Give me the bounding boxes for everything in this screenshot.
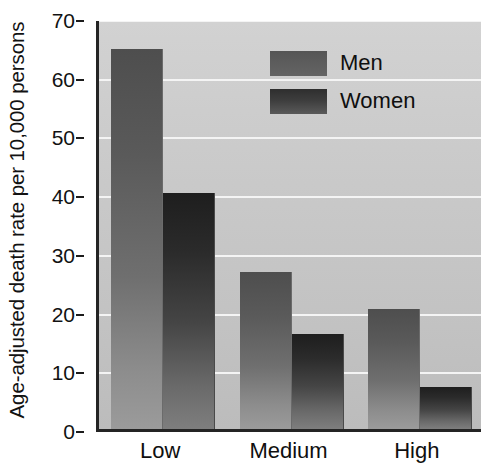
x-axis-ticks: LowMediumHigh bbox=[96, 438, 481, 475]
legend-label-women: Women bbox=[340, 88, 415, 114]
legend-item-men: Men bbox=[270, 44, 470, 82]
bar-chart: Age-adjusted death rate per 10,000 perso… bbox=[0, 0, 489, 475]
legend: Men Women bbox=[270, 44, 470, 120]
y-axis-tick-mark bbox=[76, 255, 84, 257]
bar-women-high bbox=[420, 387, 472, 429]
x-axis-tick-label: High bbox=[394, 438, 439, 464]
legend-label-men: Men bbox=[340, 50, 383, 76]
y-axis-title-text: Age-adjusted death rate per 10,000 perso… bbox=[5, 22, 29, 419]
y-axis-tick-mark bbox=[76, 20, 84, 22]
legend-item-women: Women bbox=[270, 82, 470, 120]
legend-swatch-women bbox=[270, 89, 327, 114]
y-axis-ticks: 010203040506070 bbox=[34, 0, 84, 475]
y-axis-tick-mark bbox=[76, 314, 84, 316]
x-axis-tick-label: Low bbox=[140, 438, 180, 464]
y-axis-tick-mark bbox=[76, 372, 84, 374]
y-axis-tick-label: 20 bbox=[52, 303, 75, 327]
x-axis-tick-label: Medium bbox=[249, 438, 327, 464]
bar-women-low bbox=[163, 193, 215, 429]
bar-men-low bbox=[111, 49, 163, 429]
y-axis-tick-mark bbox=[76, 79, 84, 81]
y-axis-title: Age-adjusted death rate per 10,000 perso… bbox=[0, 0, 34, 440]
y-axis-tick-label: 10 bbox=[52, 361, 75, 385]
y-axis-tick-mark bbox=[76, 196, 84, 198]
bar-men-high bbox=[368, 309, 420, 429]
legend-swatch-men bbox=[270, 51, 327, 76]
y-axis-tick-label: 30 bbox=[52, 244, 75, 268]
y-axis-tick-mark bbox=[76, 431, 84, 433]
y-axis-tick-mark bbox=[76, 137, 84, 139]
y-axis-tick-label: 70 bbox=[52, 9, 75, 33]
y-axis-tick-label: 60 bbox=[52, 68, 75, 92]
y-axis-tick-label: 40 bbox=[52, 185, 75, 209]
bar-men-medium bbox=[240, 272, 292, 429]
bar-women-medium bbox=[292, 334, 344, 429]
y-axis-tick-label: 0 bbox=[63, 420, 75, 444]
y-axis-tick-label: 50 bbox=[52, 126, 75, 150]
